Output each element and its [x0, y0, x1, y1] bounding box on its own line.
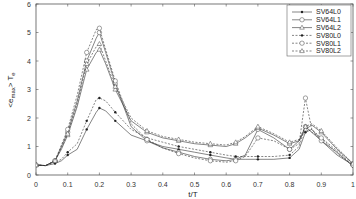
- x-tick-label: 0.2: [95, 181, 105, 188]
- legend-label: SV80L2: [316, 47, 341, 54]
- x-tick-label: 0.8: [285, 181, 295, 188]
- y-tick-label: 4: [27, 58, 31, 65]
- x-tick-label: 1: [351, 181, 355, 188]
- x-tick-label: 0: [34, 181, 38, 188]
- line-chart: 0123456 00.10.20.30.40.50.60.70.80.91 t/…: [0, 0, 356, 199]
- y-axis-label: <emax> Te: [6, 72, 16, 108]
- legend-label: SV80L1: [316, 40, 341, 47]
- x-tick-label: 0.1: [63, 181, 73, 188]
- x-tick-label: 0.9: [316, 181, 326, 188]
- y-tick-label: 3: [27, 86, 31, 93]
- x-tick-label: 0.4: [158, 181, 168, 188]
- x-axis-label: t/T: [188, 190, 197, 199]
- y-tick-label: 5: [27, 29, 31, 36]
- legend: SV64L0SV64L1SV64L2SV80L0SV80L1SV80L2: [287, 5, 351, 56]
- x-tick-label: 0.6: [221, 181, 231, 188]
- y-tick-label: 2: [27, 115, 31, 122]
- svg-text:<emax> Te: <emax> Te: [6, 72, 16, 108]
- y-tick-label: 6: [27, 1, 31, 8]
- x-tick-label: 0.7: [253, 181, 263, 188]
- legend-label: SV64L2: [316, 24, 341, 31]
- legend-label: SV64L1: [316, 16, 341, 23]
- legend-label: SV80L0: [316, 32, 341, 39]
- x-tick-label: 0.5: [190, 181, 200, 188]
- x-tick-label: 0.3: [126, 181, 136, 188]
- y-tick-label: 1: [27, 143, 31, 150]
- y-tick-label: 0: [27, 172, 31, 179]
- legend-label: SV64L0: [316, 8, 341, 15]
